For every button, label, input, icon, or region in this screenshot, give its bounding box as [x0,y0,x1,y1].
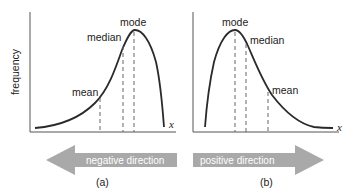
positive-direction-arrow: positive direction [193,145,324,175]
x-axis-label-a: x [168,118,174,130]
mean-label-b: mean [272,84,298,96]
mode-label-a: mode [120,16,146,28]
negative-direction-label: negative direction [86,155,164,166]
x-axis-label-b: x [336,121,342,133]
skewness-diagram: frequency mode median mean x mode median… [0,0,359,194]
positive-direction-label: positive direction [200,155,274,166]
panel-b: mode median mean x [193,12,342,133]
panel-a: frequency mode median mean x [9,12,176,132]
mode-label-b: mode [222,16,248,28]
caption-b: (b) [260,176,273,188]
median-label-b: median [250,34,285,46]
median-label-a: median [87,31,122,43]
negative-direction-arrow: negative direction [46,145,177,175]
caption-a: (a) [96,176,109,188]
y-axis-label: frequency [9,48,21,95]
mean-label-a: mean [72,86,98,98]
